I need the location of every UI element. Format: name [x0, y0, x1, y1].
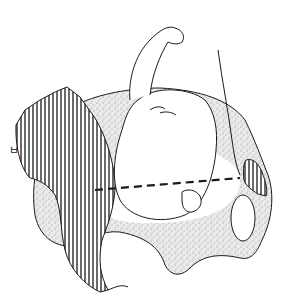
coccyx-line — [108, 286, 128, 290]
obturator-foramen — [231, 195, 255, 241]
fetal-hand — [182, 190, 201, 212]
pelvis-fetus-illustration — [0, 0, 284, 307]
figure-label-mark: ㅂ — [9, 145, 19, 156]
